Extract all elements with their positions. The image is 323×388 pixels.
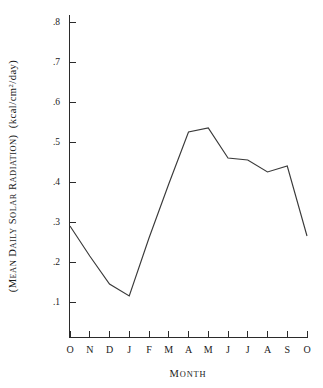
- y-axis-title: (MEAN DAILY SOLAR RADIATION) (kcal/cm2/d…: [7, 60, 19, 293]
- y-tick-label: .3: [53, 217, 60, 227]
- ylabel-small-mean: EAN: [9, 260, 18, 279]
- y-tick-label: .6: [53, 97, 60, 107]
- x-tick-label: J: [226, 344, 230, 355]
- xlabel-caps: M: [169, 368, 179, 379]
- y-axis-title-text: (MEAN DAILY SOLAR RADIATION) (kcal/cm2/d…: [7, 60, 19, 293]
- y-tick-label: .1: [53, 297, 60, 307]
- x-axis-title: MONTH: [169, 368, 206, 379]
- x-tick-label: J: [246, 344, 250, 355]
- x-tick-label: M: [164, 344, 173, 355]
- ylabel-small-radiation: ADIATION: [9, 138, 18, 182]
- x-tick-label: D: [106, 344, 113, 355]
- ylabel-units: (kcal/cm: [7, 87, 19, 128]
- x-tick-label: J: [127, 344, 131, 355]
- x-tick-label: O: [303, 344, 310, 355]
- ylabel-units-tail: /day): [7, 60, 19, 84]
- x-tick-label: O: [66, 344, 73, 355]
- ylabel-caps-daily: D: [7, 249, 18, 257]
- x-tick-label: A: [185, 344, 193, 355]
- ylabel-small-solar: OLAR: [9, 193, 18, 218]
- chart-background: [0, 0, 323, 388]
- ylabel-caps-mean: M: [7, 278, 18, 288]
- x-tick-label: M: [204, 344, 213, 355]
- y-tick-label: .7: [53, 57, 60, 67]
- xlabel-small: ONTH: [180, 370, 207, 379]
- y-tick-label: .8: [53, 17, 60, 27]
- y-tick-label: .5: [53, 137, 60, 147]
- solar-radiation-line-chart: .8.7.6.5.4.3.2.1 ONDJFMAMJJASO (MEAN DAI…: [0, 0, 323, 388]
- x-tick-label: F: [146, 344, 152, 355]
- ylabel-caps-radiation: R: [7, 182, 18, 190]
- y-tick-label: .2: [53, 257, 60, 267]
- x-tick-label: N: [86, 344, 93, 355]
- chart-canvas: .8.7.6.5.4.3.2.1 ONDJFMAMJJASO (MEAN DAI…: [0, 0, 323, 388]
- y-tick-label: .4: [53, 177, 60, 187]
- x-tick-label: S: [284, 344, 290, 355]
- x-tick-label: A: [264, 344, 272, 355]
- ylabel-small-daily: AILY: [9, 227, 18, 248]
